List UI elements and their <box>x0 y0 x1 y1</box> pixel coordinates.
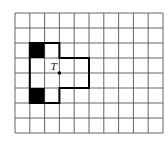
point-t <box>58 71 62 75</box>
shaded-cell <box>30 88 45 103</box>
point-label: T <box>50 61 58 72</box>
grid-diagram: T <box>0 0 168 146</box>
shaded-cell <box>30 43 45 58</box>
